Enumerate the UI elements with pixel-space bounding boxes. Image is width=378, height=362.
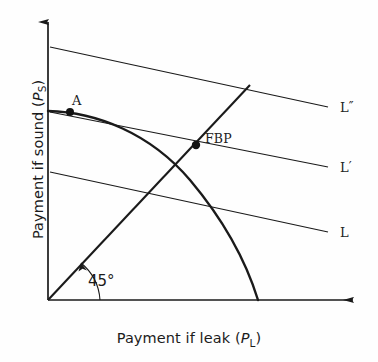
point-fbp-marker xyxy=(192,141,200,149)
x-axis-label: Payment if leak (PL) xyxy=(0,330,378,349)
curve-label-L-prime: L′ xyxy=(340,160,351,175)
angle-45-label: 45° xyxy=(88,272,115,290)
curve-label-L-base: L xyxy=(340,225,349,240)
point-fbp-label: FBP xyxy=(205,131,232,146)
x-axis-label-text: Payment if leak ( xyxy=(117,330,241,346)
curve-label-L-double-prime-base: L xyxy=(340,100,349,115)
y-axis-label-subscript: S xyxy=(36,86,48,93)
iso-profit-line-L-double-prime xyxy=(50,47,328,107)
x-axis-label-close: ) xyxy=(256,330,262,346)
curve-label-L-double-prime-mark: ″ xyxy=(349,99,353,114)
point-a-marker xyxy=(66,108,74,116)
y-axis-label-text: Payment if sound ( xyxy=(30,101,46,239)
iso-profit-line-L xyxy=(50,172,328,232)
diagram-figure: Payment if sound (PS) Payment if leak (P… xyxy=(0,0,378,362)
y-axis-label-close: ) xyxy=(30,80,46,86)
y-axis-label-variable: P xyxy=(30,92,46,101)
curve-label-L-prime-base: L xyxy=(340,160,349,175)
y-axis-label: Payment if sound (PS) xyxy=(30,34,49,284)
x-axis-label-variable: P xyxy=(241,330,250,346)
point-a-label: A xyxy=(72,93,81,108)
diagram-canvas xyxy=(0,0,378,362)
iso-profit-line-L-prime xyxy=(50,112,328,167)
curve-label-L: L xyxy=(340,225,349,240)
curve-label-L-prime-mark: ′ xyxy=(349,159,351,174)
curve-label-L-double-prime: L″ xyxy=(340,100,353,115)
